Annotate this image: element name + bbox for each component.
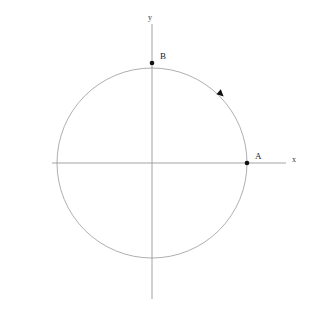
point-a-marker xyxy=(245,161,250,166)
point-b-marker xyxy=(150,61,155,66)
point-b-label: B xyxy=(160,52,166,61)
point-a-label: A xyxy=(255,152,262,161)
x-axis-label: x xyxy=(292,156,296,164)
geometry-figure-canvas: x y A B xyxy=(0,0,310,316)
y-axis-label: y xyxy=(148,14,152,22)
unit-circle-diagram xyxy=(0,0,310,316)
